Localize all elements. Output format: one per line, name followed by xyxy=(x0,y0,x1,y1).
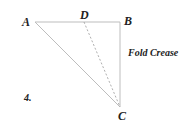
fold-diagram: A D B C Fold Crease 4. xyxy=(0,0,195,127)
edge-ac xyxy=(35,22,120,107)
fold-crease-label: Fold Crease xyxy=(127,47,179,58)
point-label-b: B xyxy=(123,14,132,28)
point-label-a: A xyxy=(21,15,30,29)
step-number: 4. xyxy=(23,92,32,103)
point-label-c: C xyxy=(118,109,127,123)
fold-crease-line xyxy=(84,22,120,107)
point-label-d: D xyxy=(79,8,89,22)
